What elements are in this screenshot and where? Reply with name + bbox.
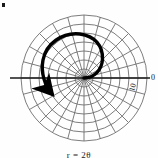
- polar-plot-figure: 0 10 r = 2θ: [0, 0, 158, 158]
- figure-caption: r = 2θ: [0, 150, 158, 158]
- polar-plot-canvas: 0 10: [0, 0, 158, 158]
- corner-registration-mark: [2, 3, 5, 7]
- axis-origin-label: 0: [151, 73, 155, 82]
